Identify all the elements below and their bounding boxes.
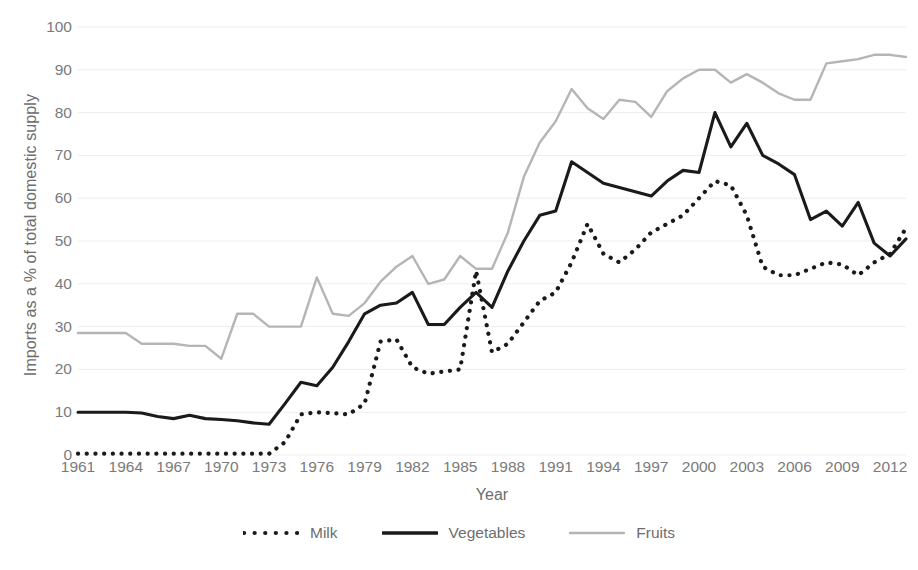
- x-tick-label: 2000: [682, 459, 716, 475]
- light-solid-line-swatch: [569, 527, 625, 539]
- x-tick-label: 1979: [347, 459, 381, 475]
- x-axis-title: Year: [78, 486, 906, 504]
- x-tick-label: 2006: [777, 459, 811, 475]
- x-tick-label: 1961: [61, 459, 95, 475]
- chart-legend: MilkVegetablesFruits: [0, 524, 918, 542]
- x-tick-label: 1994: [586, 459, 620, 475]
- x-tick-label: 1988: [491, 459, 525, 475]
- series-line-fruits: [78, 55, 906, 359]
- x-tick-label: 1985: [443, 459, 477, 475]
- x-tick-label: 2012: [873, 459, 907, 475]
- plot-area: [0, 0, 918, 470]
- x-tick-label: 2009: [825, 459, 859, 475]
- x-tick-label: 1982: [395, 459, 429, 475]
- legend-item-vegetables[interactable]: Vegetables: [382, 524, 526, 542]
- x-axis-tick-labels: 1961196419671970197319761979198219851988…: [0, 459, 918, 483]
- legend-label: Vegetables: [449, 524, 526, 542]
- x-tick-label: 1967: [156, 459, 190, 475]
- x-tick-label: 2003: [730, 459, 764, 475]
- x-tick-label: 1991: [538, 459, 572, 475]
- legend-label: Fruits: [636, 524, 675, 542]
- legend-label: Milk: [310, 524, 338, 542]
- legend-item-milk[interactable]: Milk: [243, 524, 338, 542]
- x-tick-label: 1970: [204, 459, 238, 475]
- x-tick-label: 1973: [252, 459, 286, 475]
- series-line-milk: [78, 181, 906, 454]
- line-chart: Imports as a % of total domestic supply …: [0, 0, 918, 570]
- x-tick-label: 1964: [109, 459, 143, 475]
- x-tick-label: 1997: [634, 459, 668, 475]
- solid-line-swatch: [382, 527, 438, 539]
- dotted-line-swatch: [243, 527, 299, 539]
- legend-item-fruits[interactable]: Fruits: [569, 524, 675, 542]
- x-tick-label: 1976: [300, 459, 334, 475]
